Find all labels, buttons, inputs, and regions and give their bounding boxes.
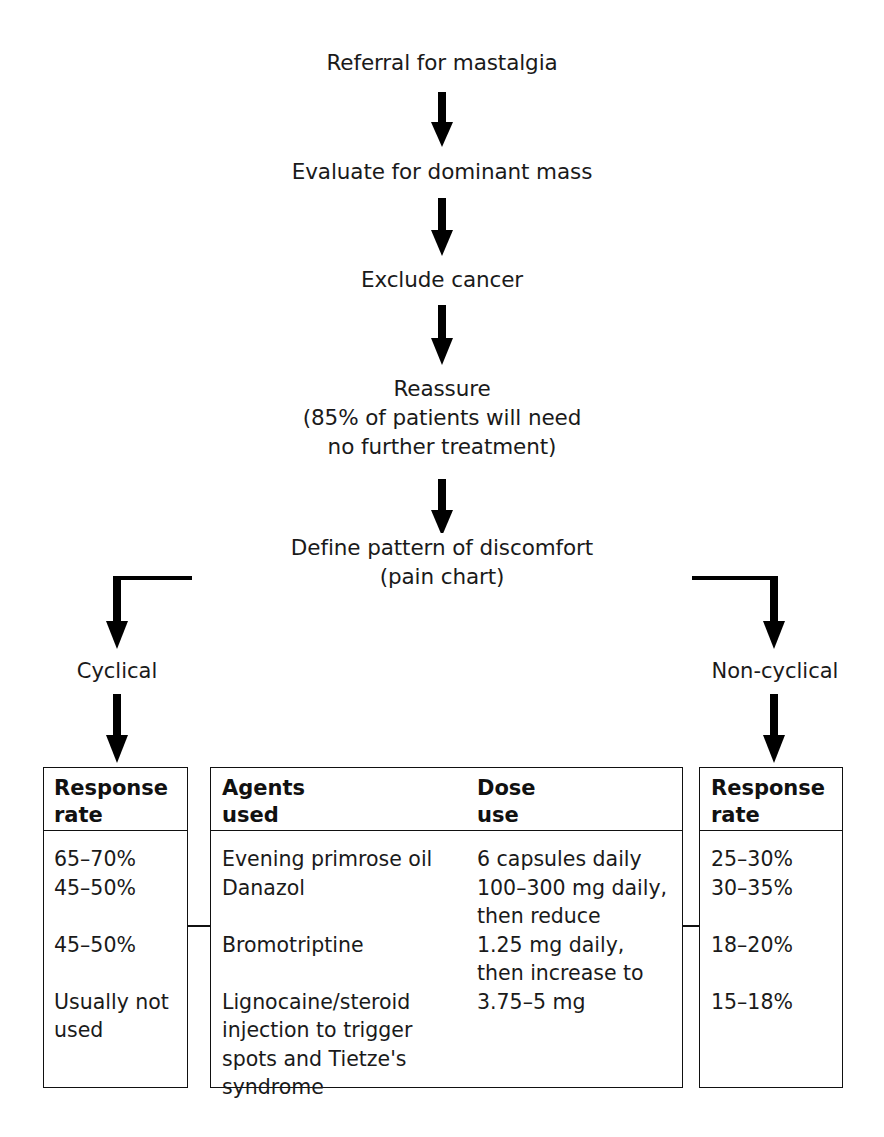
middle-box-header-rule: [211, 830, 682, 831]
middle-box-dose-column: 6 capsules daily 100–300 mg daily, then …: [477, 845, 682, 1016]
branch-label-non-cyclical: Non-cyclical: [680, 658, 870, 684]
arrow-split-to-non-cyclical: [763, 576, 785, 652]
right-box-header-rule: [700, 830, 842, 831]
left-to-middle-connector: [187, 925, 211, 927]
node-evaluate: Evaluate for dominant mass: [222, 157, 662, 186]
arrow-referral-to-evaluate: [431, 92, 453, 147]
node-referral: Referral for mastalgia: [242, 48, 642, 77]
arrow-split-to-cyclical: [106, 576, 128, 652]
arrow-cyclical-to-left-box: [106, 694, 128, 766]
flowchart-canvas: Referral for mastalgia Evaluate for domi…: [0, 0, 884, 1137]
middle-box-agents-column: Evening primrose oil Danazol Bromotripti…: [222, 845, 472, 1102]
middle-box-header-agents: Agents used: [222, 775, 422, 829]
arrow-exclude-to-reassure: [431, 305, 453, 367]
left-box-header-rule: [44, 830, 187, 831]
arrow-reassure-to-define: [431, 479, 453, 539]
left-box-header: Response rate: [54, 775, 184, 829]
node-reassure: Reassure (85% of patients will need no f…: [222, 374, 662, 461]
arrow-non-cyclical-to-right-box: [763, 694, 785, 766]
branch-label-cyclical: Cyclical: [37, 658, 197, 684]
node-define-pattern: Define pattern of discomfort (pain chart…: [192, 533, 692, 591]
middle-to-right-connector: [683, 925, 700, 927]
node-exclude: Exclude cancer: [262, 265, 622, 294]
right-box-header: Response rate: [711, 775, 841, 829]
left-box-values: 65–70% 45–50% 45–50% Usually not used: [54, 845, 184, 1045]
arrow-evaluate-to-exclude: [431, 198, 453, 258]
middle-box-header-dose: Dose use: [477, 775, 657, 829]
right-box-values: 25–30% 30–35% 18–20% 15–18%: [711, 845, 841, 1016]
